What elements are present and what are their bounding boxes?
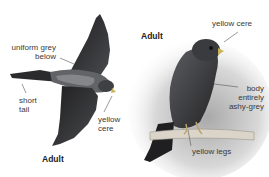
label-line: body xyxy=(220,84,264,93)
label-short-tail: short tail xyxy=(19,96,37,114)
label-yellow-cere-left: yellow cere xyxy=(98,115,120,133)
label-line: uniform grey xyxy=(8,43,56,52)
label-body-ashy-grey: body entirely ashy-grey xyxy=(220,84,264,111)
label-line: ashy-grey xyxy=(220,102,264,111)
caption-left-adult: Adult xyxy=(42,154,64,164)
caption-right-adult: Adult xyxy=(141,31,163,41)
label-uniform-grey-below: uniform grey below xyxy=(8,43,56,61)
label-line: below xyxy=(8,52,56,61)
label-line: short xyxy=(19,96,37,105)
label-line: yellow xyxy=(98,115,120,124)
label-yellow-cere-right: yellow cere xyxy=(212,19,252,28)
label-line: entirely xyxy=(220,93,264,102)
label-yellow-legs: yellow legs xyxy=(192,147,231,156)
label-line: tail xyxy=(19,105,37,114)
label-line: cere xyxy=(98,124,120,133)
